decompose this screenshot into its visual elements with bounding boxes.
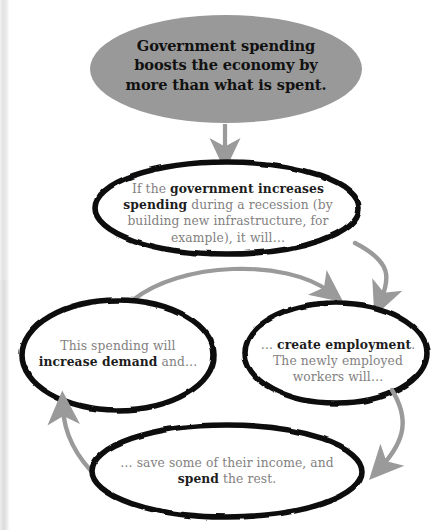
segment-emphasis: spend [178, 471, 219, 486]
segment-regular: … [261, 338, 277, 352]
segment-regular: … save some of their income, and [120, 456, 333, 470]
segment-regular-2: the rest. [219, 472, 276, 486]
node-create-employment-text: … create employment. The newly employed … [256, 337, 420, 386]
node-increase-demand-text: This spending will increase demand and… [34, 338, 202, 370]
segment-regular: If the [132, 182, 170, 196]
thesis-line-3: more than what is spent. [126, 76, 327, 93]
segment-regular-2: and… [158, 355, 198, 369]
node-save-and-spend-text: … save some of their income, and spend t… [112, 455, 342, 487]
diagram-canvas: Government spending boosts the economy b… [0, 0, 438, 530]
arrow-spending-to-employment [355, 243, 387, 300]
segment-emphasis: create employment [277, 337, 411, 352]
thesis-text: Government spending boosts the economy b… [104, 36, 348, 94]
arrow-employment-to-spend [381, 390, 403, 467]
thesis-line-2: boosts the economy by [134, 56, 317, 73]
node-government-spending-text: If the government increases spending dur… [108, 181, 348, 246]
segment-regular: This spending will [60, 339, 175, 353]
thesis-line-1: Government spending [137, 37, 315, 54]
arrow-demand-to-employment [133, 269, 330, 300]
segment-emphasis: increase demand [39, 354, 158, 369]
